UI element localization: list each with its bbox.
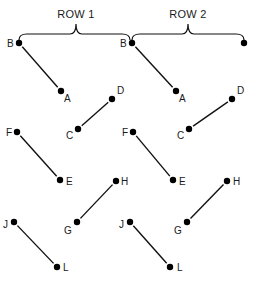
label-f: F	[122, 127, 128, 138]
row-title-1: ROW 1	[57, 8, 95, 20]
point-l	[167, 264, 173, 270]
segment-c-d	[193, 102, 228, 126]
label-d: D	[237, 85, 244, 96]
point-h	[224, 178, 230, 184]
segment-g-h	[190, 185, 223, 219]
row-title-2: ROW 2	[169, 8, 207, 20]
label-g: G	[174, 225, 182, 236]
label-l: L	[63, 262, 69, 273]
label-j: J	[3, 219, 8, 230]
label-e: E	[179, 176, 186, 187]
label-h: H	[233, 176, 240, 187]
label-b: B	[7, 38, 14, 49]
label-a: A	[64, 93, 71, 104]
label-g: G	[64, 225, 72, 236]
row-braces	[19, 24, 244, 40]
segment-b-a	[135, 47, 172, 88]
label-b: B	[120, 38, 127, 49]
point-unlabeled	[241, 40, 247, 46]
label-j: J	[119, 219, 124, 230]
segment-c-d	[82, 102, 109, 125]
point-h	[113, 178, 119, 184]
label-a: A	[179, 93, 186, 104]
point-j	[127, 219, 133, 225]
point-d	[109, 96, 115, 102]
brace-row-2	[132, 24, 244, 40]
label-e: E	[66, 176, 73, 187]
point-g	[184, 219, 190, 225]
label-f: F	[6, 127, 12, 138]
point-e	[170, 177, 176, 183]
point-f	[130, 129, 136, 135]
label-c: C	[177, 130, 184, 141]
segment-b-a	[22, 47, 57, 87]
point-b	[16, 40, 22, 46]
label-h: H	[121, 176, 128, 187]
point-f	[14, 129, 20, 135]
point-d	[229, 96, 235, 102]
point-labels: ROW 1BADCFEHGJLROW 2BADCFEHGJL	[3, 8, 244, 273]
point-b	[129, 40, 135, 46]
brace-row-1	[19, 24, 130, 40]
dot-pattern-diagram: ROW 1BADCFEHGJLROW 2BADCFEHGJL	[0, 0, 258, 288]
segment-j-l	[133, 226, 166, 264]
point-g	[74, 219, 80, 225]
point-j	[11, 219, 17, 225]
point-c	[75, 126, 81, 132]
label-d: D	[117, 85, 124, 96]
label-c: C	[66, 130, 73, 141]
segment-g-h	[80, 185, 112, 219]
segment-f-e	[20, 136, 56, 177]
segment-f-e	[136, 136, 170, 176]
point-e	[57, 177, 63, 183]
point-l	[54, 264, 60, 270]
segment-j-l	[17, 226, 53, 264]
line-segments	[17, 47, 227, 264]
label-l: L	[177, 262, 183, 273]
point-c	[186, 126, 192, 132]
